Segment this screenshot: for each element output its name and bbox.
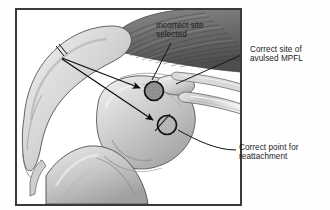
label-incorrect-site: Incorrect site selected (156, 21, 204, 40)
marker-incorrect[interactable] (145, 82, 164, 101)
illustration-canvas: Incorrect site selected Correct site of … (0, 0, 330, 210)
anatomy-group (17, 9, 248, 204)
label-correct-site: Correct site of avulsed MPFL (250, 45, 303, 64)
label-correct-point: Correct point for reattachment (239, 143, 299, 162)
